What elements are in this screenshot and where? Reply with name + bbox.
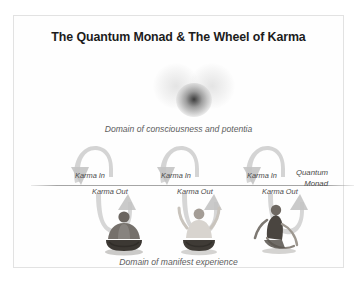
caption-manifest-experience: Domain of manifest experience — [14, 257, 343, 267]
karma-out-label-1: Karma Out — [92, 187, 128, 196]
caption-consciousness: Domain of consciousness and potentia — [14, 124, 343, 134]
karma-out-label-2: Karma Out — [177, 187, 213, 196]
quantum-monad-label-line2: Monad — [296, 179, 328, 190]
karma-in-label-2: Karma In — [161, 171, 191, 180]
karma-in-label-1: Karma In — [75, 171, 105, 180]
quantum-monad-glow-icon — [153, 63, 235, 125]
figure-seated-meditator-reclining — [252, 198, 306, 256]
slide-canvas: The Quantum Monad & The Wheel of Karma D… — [0, 0, 358, 283]
karma-out-label-3: Karma Out — [262, 187, 298, 196]
figures-group — [14, 198, 358, 256]
figure-seated-meditator-dark-robe — [98, 206, 150, 256]
monad-core — [176, 83, 212, 117]
quantum-monad-label-line1: Quantum — [296, 168, 328, 179]
figure-seated-meditator-arms-raised — [173, 202, 225, 256]
karma-in-label-3: Karma In — [247, 171, 277, 180]
slide-frame: The Quantum Monad & The Wheel of Karma D… — [13, 15, 344, 268]
quantum-monad-label: Quantum Monad — [296, 168, 328, 189]
page-title: The Quantum Monad & The Wheel of Karma — [14, 30, 343, 44]
